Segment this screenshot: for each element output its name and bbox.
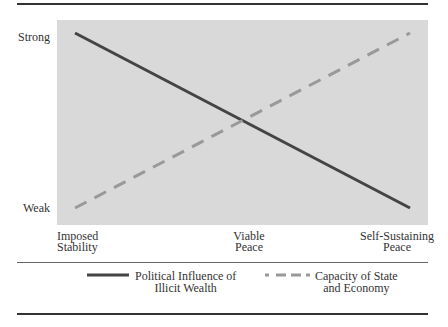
legend-item-illicit-wealth: Political Influence of Illicit Wealth (87, 270, 236, 294)
y-label-strong: Strong (5, 30, 50, 45)
bottom-rule (17, 313, 428, 315)
x-label-self-sustaining-peace: Self-Sustaining Peace (352, 231, 442, 253)
top-rule (17, 3, 428, 5)
y-label-weak: Weak (5, 201, 50, 216)
legend-divider (17, 262, 428, 263)
x-label-viable-peace: Viable Peace (224, 231, 274, 253)
dashed-line-swatch-icon (265, 272, 311, 278)
solid-line-swatch-icon (87, 272, 129, 278)
x-label-imposed-stability: Imposed Stability (57, 231, 98, 253)
plot-area (57, 20, 428, 225)
legend-item-state-capacity: Capacity of State and Economy (265, 270, 398, 294)
lines-svg (57, 20, 428, 225)
